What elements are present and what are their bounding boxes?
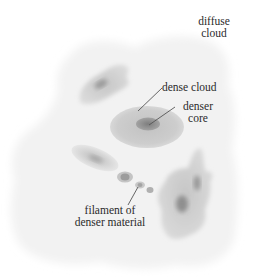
star-formation-diagram: diffuse cloud dense cloud denser core fi… bbox=[0, 0, 258, 277]
dense-cloud-center bbox=[110, 106, 184, 148]
diffuse-cloud-label: diffuse cloud bbox=[184, 15, 244, 39]
filament-label: filament of denser material bbox=[72, 204, 148, 228]
denser-core-label: denser core bbox=[178, 100, 218, 124]
dense-cloud-label: dense cloud bbox=[162, 81, 217, 93]
cloud-illustration bbox=[0, 0, 258, 277]
